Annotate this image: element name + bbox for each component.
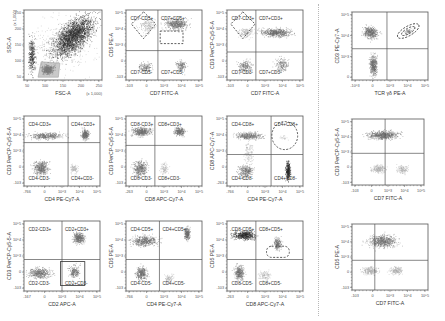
x-tick-label: 10^4 (278, 190, 286, 194)
y-tick-label: 10^4 (115, 238, 123, 242)
y-tick-label: 0 (222, 165, 224, 169)
y-tick-label: 10^4 (341, 135, 349, 139)
plot-fsc-ssc: 5010015020025050100150200250FSC-ASSC-A(x… (2, 4, 108, 102)
quadrant-label: CD2+CD3+ (65, 227, 89, 232)
plot-cd8-cd3: CD8-CD3+CD8+CD3+CD8-CD3-CD8+CD3--263010^… (104, 110, 208, 208)
x-tick-label: -10^3 (350, 84, 359, 88)
x-tick-label: 150 (60, 84, 66, 88)
y-axis-label: CD3 PerCP-Cy5-5-A (209, 21, 215, 69)
y-tick-label: 0 (19, 270, 21, 274)
quadrant-label: CD7-CD3- (232, 70, 254, 75)
y-axis-label: CD3 PerCP-Cy5-5-A (334, 128, 340, 176)
y-tick-label: 10^3 (115, 43, 123, 47)
y-tick-label: -103 (341, 286, 349, 290)
x-tick-label: 10^3 (261, 295, 269, 299)
x-tick-label: 0 (371, 84, 373, 88)
x-tick-label: -167 (23, 295, 31, 299)
y-tick-label: 200 (15, 27, 21, 31)
x-tick-label: 10^5 (421, 84, 429, 88)
y-axis-label: CD5 PE-A (209, 244, 215, 268)
y-tick-label: 10^3 (216, 254, 224, 258)
y-tick-label: 10^4 (341, 34, 349, 38)
quadrant-label: CD4+CD8- (274, 176, 297, 181)
y-axis-label: CD3 PerCP-Cy5-5-A (6, 127, 12, 175)
x-tick-label: 0 (246, 295, 248, 299)
x-tick-label: 0 (370, 189, 372, 193)
x-tick-label: -263 (125, 190, 133, 194)
y-tick-label: 10^5 (341, 120, 349, 124)
y-tick-label: 10^4 (216, 133, 224, 137)
x-tick-label: 10^5 (195, 295, 203, 299)
y-tick-label: 50 (17, 75, 21, 79)
x-tick-label: 10^3 (261, 84, 269, 88)
x-tick-label: -103 (226, 84, 234, 88)
y-tick-label: 10^3 (341, 55, 349, 59)
x-tick-label: 10^3 (386, 294, 394, 298)
y-tick-label: 10^4 (13, 133, 21, 137)
column-divider (318, 4, 319, 316)
x-tick-label: 10^4 (177, 295, 185, 299)
y-tick-label: 10^5 (115, 222, 123, 226)
plot-area (352, 224, 428, 290)
x-tick-label: 10^3 (58, 295, 66, 299)
quadrant-label: CD4-CD8+ (232, 122, 255, 127)
quadrant-label: CD7+CD3- (259, 70, 282, 75)
y-unit-note: (x 1,000) (12, 9, 17, 25)
x-tick-label: 10^4 (278, 84, 286, 88)
plot-cd7-cd3-right: -103010^310^410^5-103010^310^410^5CD7 FI… (330, 113, 430, 207)
x-axis-label: CD7 FITC-A (251, 90, 280, 96)
quadrant-label: CD4-CD5+ (131, 227, 154, 232)
x-tick-label: 10^3 (386, 84, 394, 88)
quadrant-label: CD8-CD5+ (232, 227, 255, 232)
quadrant-label: CD7+CD3+ (259, 16, 283, 21)
quadrant-label: CD7+CD5- (161, 70, 184, 75)
y-tick-label: -103 (13, 181, 21, 185)
x-tick-label: 0 (246, 84, 248, 88)
plot-tcrgd-cd3: -10^3010^310^410^5010^310^410^5TCR γδ PE… (330, 6, 434, 102)
x-tick-label: 10^3 (58, 190, 66, 194)
x-tick-label: 10^5 (417, 189, 425, 193)
y-tick-label: -103 (216, 286, 224, 290)
x-tick-label: 100 (42, 84, 48, 88)
x-tick-label: -766 (125, 295, 133, 299)
x-tick-label: 10^5 (296, 190, 304, 194)
y-axis-label: CD3 PE-Cy7-A (334, 28, 340, 63)
quadrant-label: CD4-CD3- (29, 176, 51, 181)
plot-cd7-cd3: CD7-CD3+CD7+CD3+CD7-CD3-CD7+CD3--103010^… (205, 4, 309, 102)
x-tick-label: 0 (246, 190, 248, 194)
y-axis-label: CD5 PE-A (108, 33, 114, 57)
x-tick-label: 10^3 (160, 84, 168, 88)
quadrant-label: CD4-CD5- (131, 281, 153, 286)
quadrant-label: CD8-CD3+ (131, 122, 154, 127)
quadrant-label: CD8+CD5+ (259, 227, 283, 232)
x-tick-label: 10^4 (403, 84, 411, 88)
x-tick-label: 10^5 (93, 295, 101, 299)
y-tick-label: -103 (115, 75, 123, 79)
quadrant-label: CD4+CD8+ (274, 122, 298, 127)
x-tick-label: 0 (43, 295, 45, 299)
x-axis-label: CD4 PE-Cy7-A (147, 301, 182, 307)
quadrant-label: CD4-CD3+ (29, 122, 52, 127)
y-tick-label: 10^3 (341, 255, 349, 259)
x-axis-label: CD7 FITC-A (150, 90, 179, 96)
x-tick-label: 10^4 (75, 190, 83, 194)
y-tick-label: 0 (222, 270, 224, 274)
y-tick-label: 10^4 (341, 240, 349, 244)
x-tick-label: 10^4 (177, 84, 185, 88)
y-tick-label: -103 (216, 75, 224, 79)
x-tick-label: 50 (25, 84, 29, 88)
quadrant-label: CD2-CD3- (29, 281, 51, 286)
y-tick-label: 10^3 (13, 254, 21, 258)
quadrant-label: CD4+CD5+ (162, 227, 186, 232)
y-tick-label: 10^5 (341, 13, 349, 17)
x-tick-label: -263 (226, 295, 234, 299)
y-tick-label: 10^4 (216, 27, 224, 31)
y-tick-label: 10^3 (115, 254, 123, 258)
x-tick-label: -766 (226, 190, 234, 194)
y-tick-label: 10^5 (341, 225, 349, 229)
quadrant-label: CD7-CD3+ (232, 16, 255, 21)
y-tick-label: 10^4 (216, 238, 224, 242)
x-tick-label: 10^3 (160, 295, 168, 299)
y-tick-label: 10^5 (216, 222, 224, 226)
plot-area (352, 12, 428, 80)
